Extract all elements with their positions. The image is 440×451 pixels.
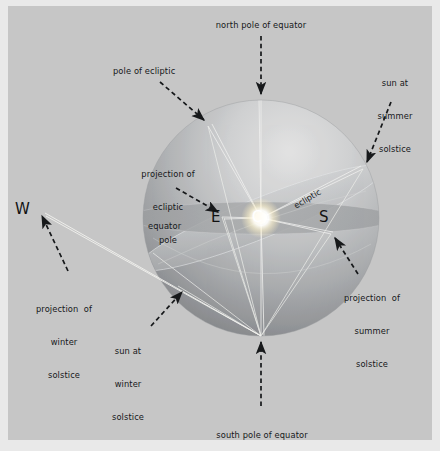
proj-summer-line-1: projection of	[324, 293, 420, 304]
diagram-figure: E C S W equator ecliptic north pole of e…	[8, 6, 432, 440]
point-label-W: W	[15, 202, 30, 217]
leader-sun-winter	[151, 292, 182, 326]
proj-winter-line-1: projection of	[16, 304, 112, 315]
sun-winter-line-2: winter	[96, 379, 160, 390]
leader-pole-ecliptic	[160, 82, 204, 120]
annotation-sun-winter-solstice: sun at winter solstice	[96, 324, 160, 440]
proj-ecl-pole-line-3: pole	[124, 235, 212, 246]
sun-summer-line-3: solstice	[363, 144, 427, 155]
south-pole-line-1: south pole of equator	[168, 430, 356, 440]
annotation-projection-ecliptic-pole: projection of ecliptic pole	[124, 147, 212, 268]
proj-summer-line-3: solstice	[324, 359, 420, 370]
annotation-pole-of-ecliptic: pole of ecliptic	[113, 66, 175, 77]
sun-winter-line-3: solstice	[96, 412, 160, 423]
annotation-sun-summer-solstice: sun at summer solstice	[363, 56, 427, 177]
proj-summer-line-2: summer	[324, 326, 420, 337]
point-label-S: S	[319, 210, 329, 225]
sun-winter-line-1: sun at	[96, 346, 160, 357]
sun-summer-line-1: sun at	[363, 78, 427, 89]
sun-summer-line-2: summer	[363, 111, 427, 122]
point-label-E: E	[211, 210, 220, 225]
annotation-projection-summer-solstice: projection of summer solstice	[324, 271, 420, 392]
point-label-C: C	[252, 210, 262, 225]
proj-ecl-pole-line-1: projection of	[124, 169, 212, 180]
proj-ecl-pole-line-2: ecliptic	[124, 202, 212, 213]
annotation-south-pole: south pole of equator (the projection po…	[168, 408, 356, 440]
annotation-north-pole: north pole of equator	[184, 20, 338, 31]
